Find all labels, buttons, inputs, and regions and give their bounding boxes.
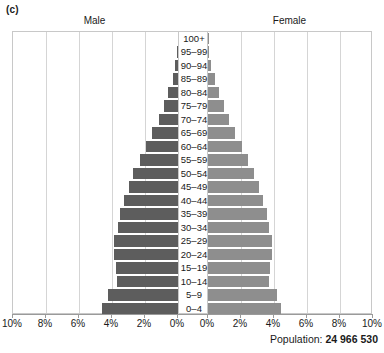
age-group-label-band: 100+95–9990–9485–8980–8475–7970–7465–696… <box>178 32 208 313</box>
age-group-label: 80–84 <box>176 86 212 99</box>
x-tick-label-5: 0% <box>170 318 184 329</box>
male-header-label: Male <box>12 15 177 26</box>
male-bar <box>140 154 178 165</box>
x-tick-label-2: 6% <box>71 318 85 329</box>
age-group-label: 100+ <box>176 32 212 45</box>
x-tick-label-10: 8% <box>332 318 346 329</box>
age-group-label: 55–59 <box>176 153 212 166</box>
population-pyramid-plot: 100+95–9990–9485–8980–8475–7970–7465–696… <box>12 31 372 314</box>
male-bar <box>146 141 178 152</box>
female-bar <box>208 303 281 314</box>
age-group-label: 45–49 <box>176 180 212 193</box>
age-group-label: 65–69 <box>176 126 212 139</box>
x-tick-label-3: 4% <box>104 318 118 329</box>
age-group-label: 10–14 <box>176 275 212 288</box>
male-bar <box>133 168 178 179</box>
x-tick-label-4: 2% <box>137 318 151 329</box>
population-prefix: Population: <box>270 333 323 345</box>
female-bar <box>208 262 270 273</box>
age-group-label: 0–4 <box>176 302 212 315</box>
male-bar <box>129 181 179 192</box>
male-bar <box>108 289 178 300</box>
male-bar <box>117 276 178 287</box>
female-bar <box>208 249 272 260</box>
age-group-label: 50–54 <box>176 167 212 180</box>
age-group-label: 20–24 <box>176 248 212 261</box>
age-group-label: 40–44 <box>176 194 212 207</box>
age-group-label: 5–9 <box>176 288 212 301</box>
age-group-label: 95–99 <box>176 45 212 58</box>
x-tick-label-0: 10% <box>2 318 22 329</box>
x-axis-tick-labels: 10%8%6%4%2%0%0%2%4%6%8%10% <box>0 318 384 332</box>
male-bar <box>114 249 178 260</box>
age-group-label: 25–29 <box>176 234 212 247</box>
male-bar <box>124 195 178 206</box>
female-bar <box>208 235 272 246</box>
age-group-label: 30–34 <box>176 221 212 234</box>
female-bar <box>208 195 263 206</box>
x-tick-label-1: 8% <box>38 318 52 329</box>
population-total: Population: 24 966 530 <box>270 333 378 345</box>
x-tick-label-7: 2% <box>233 318 247 329</box>
male-bar <box>152 127 178 138</box>
male-bar <box>114 235 178 246</box>
female-bar <box>208 127 235 138</box>
female-bar <box>208 181 259 192</box>
x-tick-label-6: 0% <box>200 318 214 329</box>
female-bar <box>208 222 269 233</box>
male-bar <box>118 222 178 233</box>
age-group-label: 75–79 <box>176 99 212 112</box>
female-bar <box>208 276 269 287</box>
female-bar <box>208 289 277 300</box>
age-group-label: 35–39 <box>176 207 212 220</box>
age-group-label: 60–64 <box>176 140 212 153</box>
x-axis-line <box>12 314 372 315</box>
population-value: 24 966 530 <box>325 333 378 345</box>
female-bar <box>208 208 267 219</box>
x-tick-label-11: 10% <box>362 318 382 329</box>
male-bar <box>116 262 178 273</box>
female-bar <box>208 141 242 152</box>
male-bar <box>120 208 178 219</box>
age-group-label: 85–89 <box>176 72 212 85</box>
female-bar <box>208 154 248 165</box>
female-header-label: Female <box>207 15 372 26</box>
male-bar <box>102 303 178 314</box>
sex-headers: Male Female <box>12 15 372 29</box>
x-tick-label-8: 4% <box>266 318 280 329</box>
age-group-label: 15–19 <box>176 261 212 274</box>
age-group-label: 70–74 <box>176 113 212 126</box>
panel-label: (c) <box>6 4 19 15</box>
x-tick-label-9: 6% <box>299 318 313 329</box>
female-bar <box>208 168 254 179</box>
age-group-label: 90–94 <box>176 59 212 72</box>
